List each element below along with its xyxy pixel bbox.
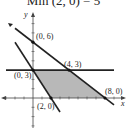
x-axis-arrow-left-icon xyxy=(1,96,6,100)
vertex-point xyxy=(49,96,52,99)
y-axis-label: y xyxy=(23,10,28,19)
vertex-point xyxy=(103,96,106,99)
y-axis-arrow-icon xyxy=(31,12,35,17)
x-axis-label: x xyxy=(120,99,125,108)
point-label: (0, 6) xyxy=(36,32,54,41)
point-label: (8, 0) xyxy=(105,87,123,96)
point-label: (0, 3) xyxy=(14,71,32,80)
plot-area: yx(0, 6)(0, 3)(4, 3)(8, 0)(2, 0) xyxy=(0,0,127,135)
vertex-point xyxy=(31,69,34,72)
line-arrow-icon xyxy=(8,23,13,27)
feasible-region xyxy=(33,70,105,98)
point-label: (4, 3) xyxy=(64,60,82,69)
vertex-point xyxy=(31,41,34,44)
point-label: (2, 0) xyxy=(37,102,55,111)
